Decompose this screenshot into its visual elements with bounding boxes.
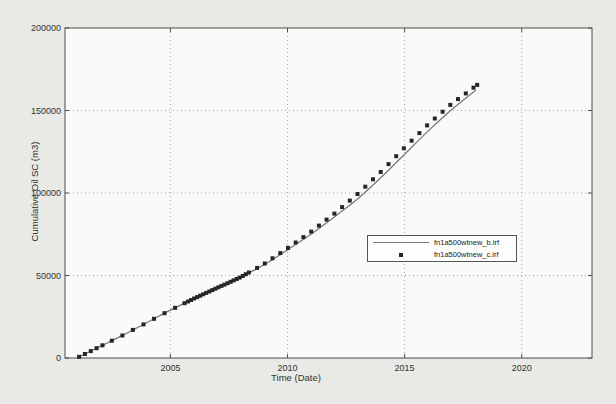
plot-area xyxy=(65,28,592,358)
data-point-marker xyxy=(286,246,290,250)
data-point-marker xyxy=(142,322,146,326)
legend-label-line: fn1a500wtnew_b.irf xyxy=(434,239,499,247)
data-point-marker xyxy=(475,83,479,87)
y-tick-label: 0 xyxy=(56,353,61,363)
y-axis-label: Cumulative Oil SC (m3) xyxy=(29,112,40,272)
data-point-marker xyxy=(89,349,93,353)
data-point-marker xyxy=(464,91,468,95)
data-point-marker xyxy=(247,271,251,275)
data-point-marker xyxy=(263,262,267,266)
data-point-marker xyxy=(433,117,437,121)
data-point-marker xyxy=(77,355,81,359)
data-point-marker xyxy=(325,218,329,222)
data-point-marker xyxy=(110,339,114,343)
data-point-marker xyxy=(83,352,87,356)
legend: fn1a500wtnew_b.irf fn1a500wtnew_c.irf xyxy=(367,235,517,262)
data-point-marker xyxy=(456,97,460,101)
data-point-marker xyxy=(371,177,375,181)
data-point-marker xyxy=(294,241,298,245)
data-point-marker xyxy=(448,103,452,107)
data-point-marker xyxy=(120,334,124,338)
data-point-marker xyxy=(387,162,391,166)
data-point-marker xyxy=(278,251,282,255)
legend-line-swatch xyxy=(368,242,434,243)
data-point-marker xyxy=(317,224,321,228)
data-point-marker xyxy=(95,346,99,350)
square-marker-icon xyxy=(399,253,403,257)
data-point-marker xyxy=(255,266,259,270)
legend-marker-swatch xyxy=(368,253,434,257)
data-point-marker xyxy=(441,110,445,114)
chart-canvas: 2005201020152020050000100000150000200000 xyxy=(0,0,616,404)
data-point-marker xyxy=(402,146,406,150)
data-point-marker xyxy=(131,328,135,332)
data-point-marker xyxy=(332,212,336,216)
data-point-marker xyxy=(301,235,305,239)
data-point-marker xyxy=(472,86,476,90)
data-point-marker xyxy=(173,306,177,310)
data-point-marker xyxy=(356,192,360,196)
data-point-marker xyxy=(363,185,367,189)
data-point-marker xyxy=(417,131,421,135)
data-point-marker xyxy=(271,256,275,260)
legend-entry-line: fn1a500wtnew_b.irf xyxy=(368,237,516,248)
data-point-marker xyxy=(163,311,167,315)
data-point-marker xyxy=(101,343,105,347)
data-point-marker xyxy=(425,123,429,127)
data-point-marker xyxy=(340,205,344,209)
data-point-marker xyxy=(379,170,383,174)
data-point-marker xyxy=(394,154,398,158)
line-sample-icon xyxy=(373,242,429,243)
data-point-marker xyxy=(152,317,156,321)
y-tick-label: 200000 xyxy=(31,23,61,33)
data-point-marker xyxy=(348,199,352,203)
data-point-marker xyxy=(309,230,313,234)
data-point-marker xyxy=(183,301,187,305)
figure: 2005201020152020050000100000150000200000… xyxy=(0,0,616,404)
legend-label-scatter: fn1a500wtnew_c.irf xyxy=(434,251,499,259)
legend-entry-scatter: fn1a500wtnew_c.irf xyxy=(368,249,516,260)
y-tick-label: 50000 xyxy=(36,271,61,281)
data-point-marker xyxy=(410,139,414,143)
x-axis-label: Time (Date) xyxy=(0,372,592,383)
